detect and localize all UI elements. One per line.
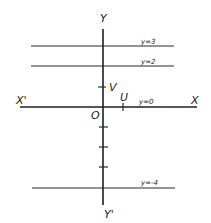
- x-neg-axis-label: X': [15, 94, 27, 107]
- x-axis-label: X: [190, 94, 199, 107]
- v-unit-label: V: [109, 81, 118, 94]
- origin-label: O: [91, 109, 100, 122]
- line-label-y-3: y=3: [140, 38, 155, 46]
- y-axis-label: Y: [100, 12, 108, 25]
- line-label-y-neg4: y=-4: [140, 179, 158, 187]
- line-label-y-0: y=0: [138, 98, 154, 106]
- u-unit-label: U: [120, 91, 128, 104]
- line-label-y-2: y=2: [140, 58, 156, 66]
- coordinate-diagram: Y Y' X' X O V U y=3 y=2 y=0 y=-4: [0, 0, 211, 223]
- y-neg-axis-label: Y': [104, 208, 114, 221]
